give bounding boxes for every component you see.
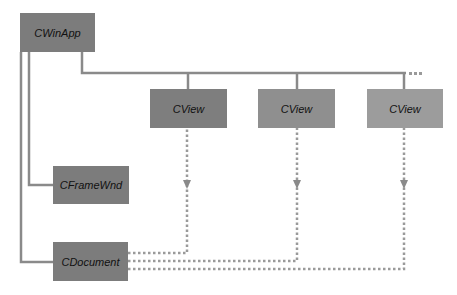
node-label: CView [173,103,205,115]
doc-to-view3-dotted [128,128,404,269]
cview-node-3: CView [367,89,443,128]
cview-node-2: CView [258,89,335,128]
node-label: CWinApp [34,27,80,39]
arrow-down-icon [400,180,408,189]
node-label: CView [389,103,421,115]
node-label: CView [281,103,313,115]
doc-to-view1-dotted [128,128,187,253]
bus-continuation-dots [409,72,422,75]
node-label: CDocument [61,256,119,268]
cdocument-node: CDocument [53,242,128,281]
doc-to-view2-dotted [128,128,297,261]
arrow-down-icon [183,180,191,189]
app-to-frame-line [29,52,53,185]
app-to-views-bus [82,52,406,73]
app-to-doc-line [21,52,53,262]
arrow-down-icon [293,180,301,189]
cview-node-1: CView [150,89,227,128]
cframewnd-node: CFrameWnd [53,166,129,204]
cwinapp-node: CWinApp [20,13,95,52]
node-label: CFrameWnd [60,179,122,191]
